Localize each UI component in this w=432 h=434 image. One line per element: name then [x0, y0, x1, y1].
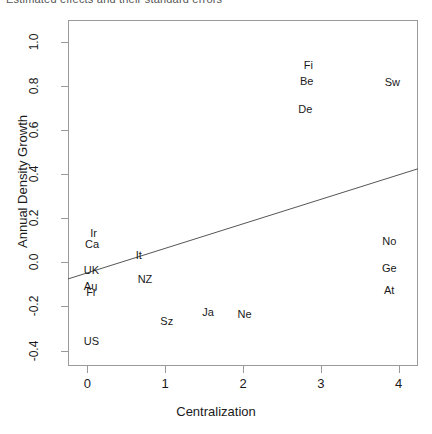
data-point-label: It: [136, 249, 142, 260]
x-tick-mark: [243, 366, 244, 373]
data-point-label: US: [84, 335, 99, 346]
data-point-label: De: [298, 104, 312, 115]
y-tick-mark: [61, 306, 68, 307]
x-tick-mark: [165, 366, 166, 373]
x-axis-title: Centralization: [0, 404, 432, 419]
y-tick-mark: [61, 174, 68, 175]
y-tick-mark: [61, 218, 68, 219]
x-tick-label: 4: [395, 376, 402, 391]
data-point-label: UK: [84, 265, 99, 276]
data-point-label: NZ: [138, 273, 153, 284]
y-tick-mark: [61, 262, 68, 263]
y-tick-mark: [61, 130, 68, 131]
y-tick-label: 1.0: [27, 15, 41, 70]
x-tick-label: 1: [162, 376, 169, 391]
data-point-label: Be: [300, 75, 313, 86]
data-point-label: Sz: [160, 315, 173, 326]
data-point-label: Ja: [202, 307, 214, 318]
y-tick-mark: [61, 86, 68, 87]
x-tick-label: 3: [317, 376, 324, 391]
scatter-plot-figure: Estimated effects and their standard err…: [0, 0, 432, 434]
y-axis-title: Annual Density Growth: [15, 72, 30, 292]
y-tick-mark: [61, 351, 68, 352]
data-point-label: Ne: [238, 309, 252, 320]
x-tick-label: 0: [84, 376, 91, 391]
data-point-label: Fi: [304, 60, 313, 71]
x-tick-label: 2: [239, 376, 246, 391]
data-point-label: Ca: [85, 238, 99, 249]
data-point-label: At: [384, 284, 394, 295]
x-tick-mark: [321, 366, 322, 373]
data-point-label: Sw: [385, 76, 400, 87]
y-tick-mark: [61, 42, 68, 43]
x-tick-mark: [399, 366, 400, 373]
plot-data-area: FiBeSwDeIrCaNoItUKGeNZAuAtFrJaNeSzUS: [68, 20, 418, 366]
x-tick-mark: [87, 366, 88, 373]
data-point-label: No: [382, 236, 396, 247]
clipped-header-text: Estimated effects and their standard err…: [6, 0, 306, 3]
data-point-label: Fr: [86, 287, 96, 298]
data-point-label: Ge: [382, 262, 397, 273]
